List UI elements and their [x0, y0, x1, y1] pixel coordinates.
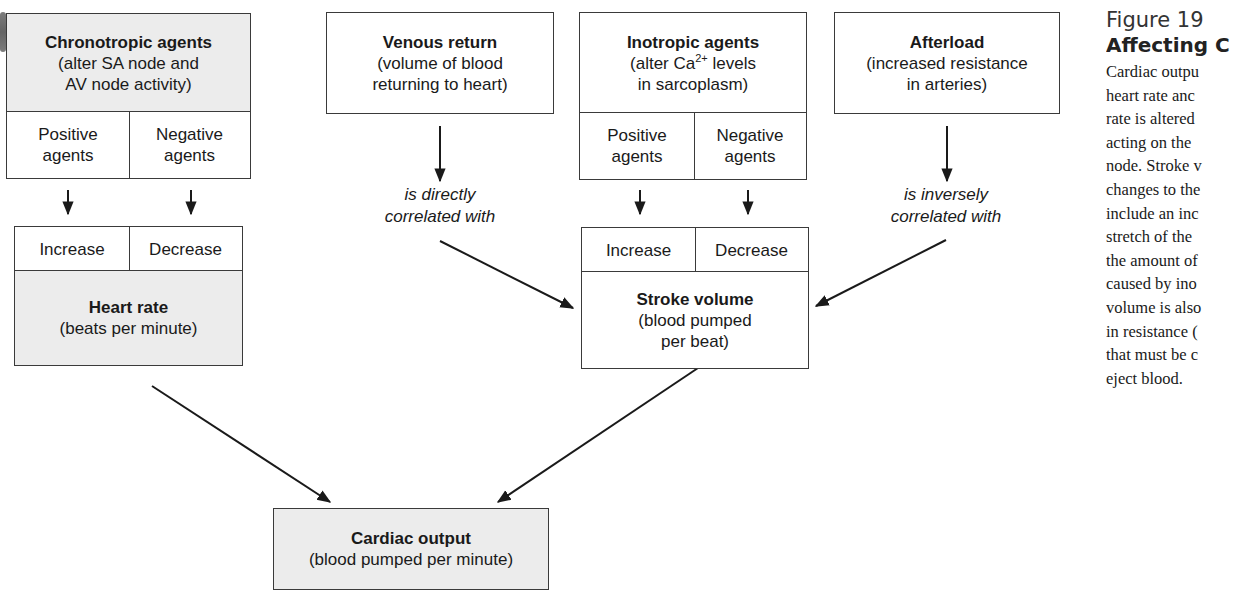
chronotropic-line1: (alter SA node and — [58, 53, 199, 74]
caption-line: acting on the — [1106, 131, 1236, 155]
arrow-afterload-to-stroke-volume — [816, 240, 946, 306]
cardiac-output-box: Cardiac output (blood pumped per minute) — [273, 508, 549, 590]
caption-line: the amount of — [1106, 249, 1236, 273]
caption-line: changes to the — [1106, 178, 1236, 202]
arrow-heart-rate-to-cardiac-output — [152, 386, 330, 502]
agents-label: agents — [164, 145, 215, 166]
caption-line: in resistance ( — [1106, 320, 1236, 344]
inotropic-agents-box: Inotropic agents (alter Ca2+ levels in s… — [579, 12, 807, 114]
venous-return-line2: returning to heart) — [372, 74, 507, 95]
figure-caption: Figure 19 Affecting C Cardiac outpu hear… — [1106, 8, 1236, 390]
chronotropic-title: Chronotropic agents — [45, 32, 212, 53]
positive-label: Positive — [38, 124, 98, 145]
inversely-line1: is inversely — [846, 184, 1046, 206]
venous-return-title: Venous return — [383, 32, 497, 53]
caption-line: heart rate anc — [1106, 84, 1236, 108]
stroke-volume-title: Stroke volume — [636, 289, 753, 310]
agents-label: agents — [611, 146, 662, 167]
chronotropic-line2: AV node activity) — [65, 74, 191, 95]
afterload-line2: in arteries) — [907, 74, 987, 95]
afterload-title: Afterload — [910, 32, 985, 53]
arrow-venous-to-stroke-volume — [440, 241, 573, 308]
stroke-volume-line2: per beat) — [661, 331, 729, 352]
positive-label: Positive — [607, 125, 667, 146]
caption-line: that must be c — [1106, 343, 1236, 367]
caption-body: Cardiac outpu heart rate anc rate is alt… — [1106, 60, 1236, 390]
caption-line: eject blood. — [1106, 367, 1236, 391]
heart-rate-subtitle: (beats per minute) — [60, 318, 198, 339]
caption-line: rate is altered — [1106, 107, 1236, 131]
caption-heading: Affecting C — [1106, 33, 1236, 58]
heart-rate-increase: Increase — [15, 227, 129, 271]
inotropic-line2: in sarcoplasm) — [638, 74, 749, 95]
caption-line: stretch of the — [1106, 225, 1236, 249]
directly-line1: is directly — [340, 184, 540, 206]
inversely-line2: correlated with — [846, 206, 1046, 228]
directly-line2: correlated with — [340, 206, 540, 228]
heart-rate-box: Heart rate (beats per minute) — [14, 270, 243, 366]
stroke-volume-box: Stroke volume (blood pumped per beat) — [581, 271, 809, 369]
chronotropic-negative-agents: Negative agents — [129, 112, 250, 178]
caption-line: node. Stroke v — [1106, 154, 1236, 178]
inotropic-title: Inotropic agents — [627, 32, 759, 53]
afterload-box: Afterload (increased resistance in arter… — [834, 12, 1060, 114]
negative-label: Negative — [716, 125, 783, 146]
cardiac-output-subtitle: (blood pumped per minute) — [309, 549, 513, 570]
caption-line: include an inc — [1106, 202, 1236, 226]
stroke-volume-line1: (blood pumped — [638, 310, 751, 331]
agents-label: agents — [42, 145, 93, 166]
inversely-correlated-label: is inversely correlated with — [846, 184, 1046, 228]
caption-figure-number: Figure 19 — [1106, 8, 1236, 33]
directly-correlated-label: is directly correlated with — [340, 184, 540, 228]
heart-rate-split: Increase Decrease — [14, 226, 243, 272]
chronotropic-positive-agents: Positive agents — [7, 112, 129, 178]
chronotropic-agents-box: Chronotropic agents (alter SA node and A… — [6, 13, 251, 113]
venous-return-line1: (volume of blood — [377, 53, 503, 74]
caption-line: caused by ino — [1106, 272, 1236, 296]
caption-line: Cardiac outpu — [1106, 60, 1236, 84]
venous-return-box: Venous return (volume of blood returning… — [326, 12, 554, 114]
cardiac-output-title: Cardiac output — [351, 528, 471, 549]
stroke-volume-split: Increase Decrease — [581, 227, 809, 273]
agents-label: agents — [724, 146, 775, 167]
heart-rate-decrease: Decrease — [129, 227, 242, 271]
chronotropic-agents-split: Positive agents Negative agents — [6, 111, 251, 179]
negative-label: Negative — [156, 124, 223, 145]
heart-rate-title: Heart rate — [89, 297, 168, 318]
inotropic-agents-split: Positive agents Negative agents — [579, 112, 807, 180]
stroke-volume-increase: Increase — [582, 228, 695, 272]
arrow-stroke-volume-to-cardiac-output — [498, 368, 698, 502]
stroke-volume-decrease: Decrease — [695, 228, 808, 272]
inotropic-line1: (alter Ca2+ levels — [630, 53, 756, 74]
inotropic-positive-agents: Positive agents — [580, 113, 694, 179]
caption-line: volume is also — [1106, 296, 1236, 320]
inotropic-negative-agents: Negative agents — [694, 113, 806, 179]
afterload-line1: (increased resistance — [866, 53, 1028, 74]
